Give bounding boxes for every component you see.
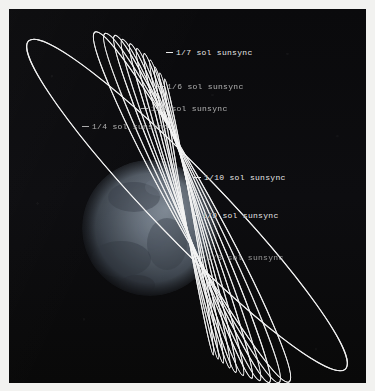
tick-marker-icon [194, 177, 201, 178]
orbit-label-1-4: 1/4 sol sunsync [82, 123, 169, 131]
orbit-figure: 1/7 sol sunsync 1/6 sol sunsync 1/5 sol … [0, 0, 375, 391]
orbit-label-1-9: 1/9 sol sunsync [192, 212, 279, 220]
tick-marker-icon [197, 257, 204, 258]
tick-marker-icon [166, 52, 173, 53]
orbit-label-1-10: 1/10 sol sunsync [194, 174, 286, 182]
orbit-label-text: 1/10 sol sunsync [204, 173, 286, 182]
orbit-label-1-7: 1/7 sol sunsync [166, 49, 253, 57]
tick-marker-icon [192, 215, 199, 216]
orbit-label-1-8: 1/8 sol sunsync [197, 254, 284, 262]
orbit-label-text: 1/5 sol sunsync [151, 104, 228, 113]
plot-area: 1/7 sol sunsync 1/6 sol sunsync 1/5 sol … [9, 9, 366, 383]
orbit-label-text: 1/4 sol sunsync [92, 122, 169, 131]
orbit-label-text: 1/8 sol sunsync [207, 253, 284, 262]
orbit-label-1-6: 1/6 sol sunsync [157, 83, 244, 91]
orbit-label-text: 1/6 sol sunsync [167, 82, 244, 91]
orbit-plot-svg [9, 9, 366, 383]
orbit-label-text: 1/7 sol sunsync [176, 48, 253, 57]
orbit-label-1-5: 1/5 sol sunsync [141, 105, 228, 113]
orbit-label-text: 1/9 sol sunsync [202, 211, 279, 220]
tick-marker-icon [82, 126, 89, 127]
tick-marker-icon [157, 86, 164, 87]
tick-marker-icon [141, 108, 148, 109]
